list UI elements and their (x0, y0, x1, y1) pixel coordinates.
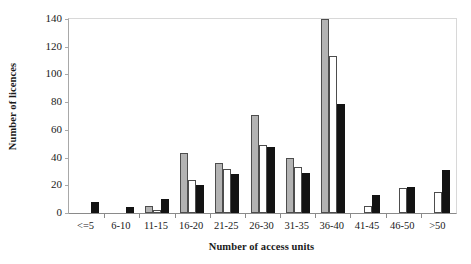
x-tick-label: 41-45 (355, 221, 380, 232)
bar (294, 167, 302, 213)
x-tick-label: <=5 (77, 221, 94, 232)
bar (251, 115, 259, 213)
x-tick-mark (139, 213, 140, 218)
bar (153, 210, 161, 213)
bar (259, 145, 267, 213)
bar (188, 180, 196, 213)
bar-group (321, 19, 345, 213)
bar (321, 19, 329, 213)
x-tick-mark (315, 213, 316, 218)
y-tick-mark (65, 130, 69, 131)
y-axis-title-text: Number of licences (8, 62, 19, 149)
bar (91, 202, 99, 213)
bar (399, 188, 407, 213)
bar (286, 158, 294, 213)
bar-group (110, 19, 134, 213)
y-tick-mark (65, 158, 69, 159)
x-tick-label: 21-25 (214, 221, 239, 232)
bar (337, 104, 345, 213)
x-axis-title: Number of access units (68, 241, 455, 252)
bar-group (426, 19, 450, 213)
x-tick-mark (421, 213, 422, 218)
x-tick-mark (210, 213, 211, 218)
bar (302, 173, 310, 213)
x-tick-label: 26-30 (249, 221, 274, 232)
bar (231, 174, 239, 213)
bar-group (145, 19, 169, 213)
bar (434, 192, 442, 213)
y-tick-mark (65, 185, 69, 186)
bar-group (215, 19, 239, 213)
x-tick-mark (386, 213, 387, 218)
x-tick-mark (104, 213, 105, 218)
x-tick-label: 31-35 (284, 221, 309, 232)
x-tick-mark (175, 213, 176, 218)
y-axis-tick-labels: 020406080100120140 (26, 0, 66, 264)
plot-area (68, 18, 457, 214)
bar-group (356, 19, 380, 213)
x-tick-mark (280, 213, 281, 218)
x-tick-label: 36-40 (320, 221, 345, 232)
y-tick-mark (65, 102, 69, 103)
bar (329, 56, 337, 213)
bar (372, 195, 380, 213)
y-tick-label: 140 (26, 13, 62, 24)
bar (364, 206, 372, 213)
x-tick-label: 6-10 (111, 221, 130, 232)
y-axis-title: Number of licences (0, 0, 26, 212)
bar-chart: Number of licences 020406080100120140 <=… (0, 0, 471, 264)
x-axis-tick-labels: <=56-1011-1516-2021-2526-3031-3536-4041-… (68, 221, 455, 237)
bar-group (75, 19, 99, 213)
y-tick-mark (65, 74, 69, 75)
x-tick-label: 16-20 (179, 221, 204, 232)
bar (442, 170, 450, 213)
bar (223, 169, 231, 213)
x-tick-label: >50 (429, 221, 445, 232)
bar (196, 185, 204, 213)
bar (145, 206, 153, 213)
bar (267, 147, 275, 214)
bar-group (391, 19, 415, 213)
bar (126, 207, 134, 213)
y-tick-label: 0 (26, 207, 62, 218)
y-tick-label: 40 (26, 151, 62, 162)
bar (180, 153, 188, 213)
bar (407, 187, 415, 213)
x-tick-mark (245, 213, 246, 218)
bar-group (180, 19, 204, 213)
y-tick-mark (65, 47, 69, 48)
y-tick-label: 100 (26, 68, 62, 79)
bar (215, 163, 223, 213)
y-tick-mark (65, 19, 69, 20)
x-tick-label: 46-50 (390, 221, 415, 232)
x-tick-label: 11-15 (144, 221, 168, 232)
x-tick-mark (350, 213, 351, 218)
y-tick-label: 20 (26, 179, 62, 190)
bar-group (251, 19, 275, 213)
y-tick-label: 120 (26, 40, 62, 51)
y-tick-label: 60 (26, 123, 62, 134)
bar-group (286, 19, 310, 213)
y-tick-mark (65, 213, 69, 214)
y-tick-label: 80 (26, 96, 62, 107)
bar (161, 199, 169, 213)
